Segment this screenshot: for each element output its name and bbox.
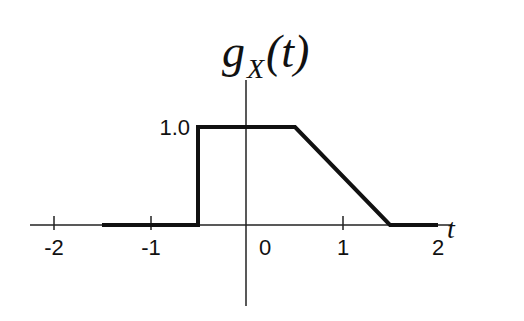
function-curve bbox=[102, 127, 438, 225]
tick-label-2: 2 bbox=[432, 235, 444, 260]
tick-label-neg1: -1 bbox=[141, 235, 161, 260]
title-subscript: X bbox=[246, 53, 265, 84]
tick-label-neg2: -2 bbox=[44, 235, 64, 260]
chart-title: g X (t) bbox=[222, 26, 309, 84]
title-arg: (t) bbox=[266, 26, 309, 77]
title-main: g bbox=[222, 26, 245, 77]
tick-label-0: 0 bbox=[259, 235, 271, 260]
tick-label-1: 1 bbox=[337, 235, 349, 260]
chart: -2 -1 0 1 2 1.0 t g X (t) bbox=[0, 0, 524, 321]
x-axis-label: t bbox=[447, 213, 456, 244]
y-value-label: 1.0 bbox=[159, 115, 190, 140]
